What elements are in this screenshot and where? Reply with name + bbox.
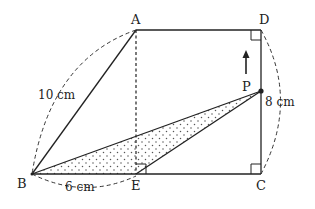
label-b: B (17, 176, 27, 191)
arrow-up-icon (243, 50, 250, 74)
point-b-dot (31, 173, 34, 176)
right-angle-c (251, 164, 261, 174)
measure-dc: 8 cm (265, 95, 295, 109)
label-a: A (130, 12, 141, 27)
label-p: P (242, 79, 251, 94)
geometry-diagram: A D B E C P 10 cm 6 cm 8 cm (0, 0, 315, 209)
label-e: E (131, 178, 141, 193)
right-angle-d (251, 30, 261, 40)
measure-be: 6 cm (65, 180, 95, 194)
label-d: D (259, 12, 269, 27)
label-c: C (256, 178, 266, 193)
measure-ab: 10 cm (38, 88, 76, 102)
point-p-dot (258, 88, 263, 93)
